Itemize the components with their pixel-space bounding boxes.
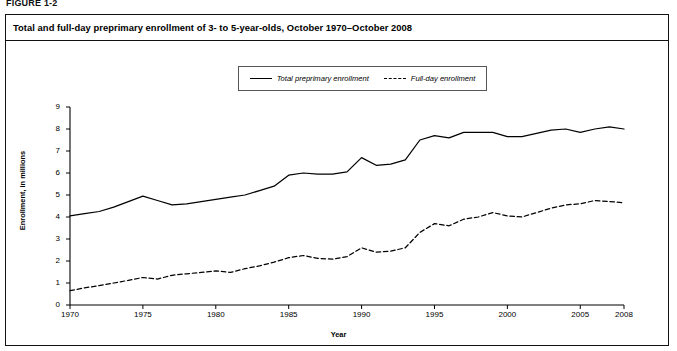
- y-axis-tick-label: 4: [44, 212, 60, 221]
- series-line-fullday: [70, 201, 624, 291]
- y-axis-tick-label: 8: [44, 124, 60, 133]
- y-axis-tick-label: 2: [44, 256, 60, 265]
- x-axis-tick-label: 2008: [604, 310, 644, 319]
- y-axis-tick-label: 9: [44, 102, 60, 111]
- y-axis-tick-label: 5: [44, 190, 60, 199]
- x-axis-tick-label: 1985: [269, 310, 309, 319]
- x-axis-tick-label: 1990: [342, 310, 382, 319]
- series-line-total: [70, 127, 624, 216]
- chart-plot-area: Enrollment, in millions Year 0123456789 …: [0, 0, 677, 351]
- y-axis-tick-label: 0: [44, 300, 60, 309]
- y-axis-tick-label: 1: [44, 278, 60, 287]
- x-axis-tick-label: 1995: [414, 310, 454, 319]
- x-axis-title: Year: [0, 330, 677, 339]
- x-axis-tick-label: 1970: [50, 310, 90, 319]
- y-axis-tick-label: 3: [44, 234, 60, 243]
- x-axis-tick-label: 1975: [123, 310, 163, 319]
- y-axis-tick-label: 7: [44, 146, 60, 155]
- x-axis-tick-label: 2005: [560, 310, 600, 319]
- x-axis-tick-label: 1980: [196, 310, 236, 319]
- y-axis-tick-label: 6: [44, 168, 60, 177]
- chart-canvas: [0, 0, 677, 351]
- y-axis-title: Enrollment, in millions: [18, 136, 27, 246]
- x-axis-tick-label: 2000: [487, 310, 527, 319]
